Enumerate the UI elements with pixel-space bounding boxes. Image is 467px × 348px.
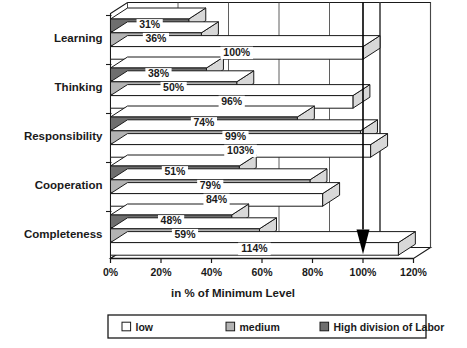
x-tick-label: 100% bbox=[350, 266, 378, 278]
bar-value-label: 114% bbox=[241, 242, 268, 254]
category-label-responsibility: Responsibility bbox=[24, 130, 103, 142]
x-tick-label: 120% bbox=[400, 266, 428, 278]
bar-value-label: 103% bbox=[227, 144, 255, 156]
bar-value-label: 59% bbox=[174, 228, 196, 240]
category-axis-labels: LearningThinkingResponsibilityCooperatio… bbox=[24, 32, 103, 240]
category-label-thinking: Thinking bbox=[55, 81, 103, 93]
bar-value-label: 84% bbox=[206, 193, 228, 205]
bar-value-label: 31% bbox=[139, 18, 161, 30]
bar-chart: LearningThinkingResponsibilityCooperatio… bbox=[0, 0, 467, 348]
legend-item: low bbox=[122, 321, 154, 333]
category-label-cooperation: Cooperation bbox=[35, 179, 103, 191]
chart-legend: lowmediumHigh division of Labor bbox=[108, 315, 444, 338]
bar-value-label: 48% bbox=[161, 214, 183, 226]
bar-value-label: 50% bbox=[163, 81, 185, 93]
legend-label: medium bbox=[240, 321, 280, 333]
bar-value-label: 38% bbox=[148, 67, 170, 79]
chart-svg: LearningThinkingResponsibilityCooperatio… bbox=[0, 0, 467, 348]
bar-value-label: 79% bbox=[200, 179, 222, 191]
category-label-completeness: Completeness bbox=[24, 228, 103, 240]
bar-value-label: 36% bbox=[145, 32, 167, 44]
legend-label: low bbox=[136, 321, 154, 333]
bar-value-label: 74% bbox=[193, 116, 215, 128]
bar-value-label: 51% bbox=[164, 165, 186, 177]
legend-swatch bbox=[320, 322, 329, 331]
legend-item: medium bbox=[226, 321, 280, 333]
x-tick-label: 60% bbox=[251, 266, 273, 278]
bar-value-label: 96% bbox=[221, 95, 243, 107]
x-axis-tick-labels: 0%20%40%60%80%100%120% bbox=[103, 266, 428, 278]
legend-label: High division of Labor bbox=[334, 321, 445, 333]
category-label-learning: Learning bbox=[54, 32, 103, 44]
x-tick-label: 80% bbox=[302, 266, 324, 278]
x-tick-label: 40% bbox=[201, 266, 223, 278]
bar-value-label: 100% bbox=[223, 46, 251, 58]
x-tick-label: 20% bbox=[150, 266, 172, 278]
legend-swatch bbox=[226, 322, 235, 331]
x-axis-title: in % of Minimum Level bbox=[171, 287, 295, 299]
legend-item: High division of Labor bbox=[320, 321, 444, 333]
bar-value-label: 99% bbox=[225, 130, 247, 142]
x-tick-label: 0% bbox=[103, 266, 119, 278]
legend-swatch bbox=[122, 322, 131, 331]
